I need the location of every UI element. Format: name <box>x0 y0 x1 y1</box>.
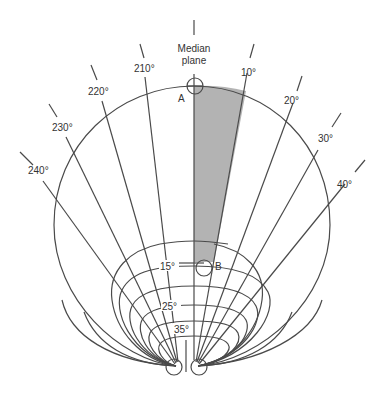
shaded-region <box>194 86 246 262</box>
angle-label-20: 20° <box>284 95 299 106</box>
angle-label-220: 220° <box>88 86 109 97</box>
angle-label-210: 210° <box>134 63 155 74</box>
angle-label-230: 230° <box>52 122 73 133</box>
left-ear-circle <box>166 359 182 375</box>
point-b-label: B <box>215 261 222 272</box>
median-label-2: plane <box>182 55 207 66</box>
angle-label-30: 30° <box>318 133 333 144</box>
angle-label-40: 40° <box>337 179 352 190</box>
inner-label-15: 15° <box>160 261 175 272</box>
sound-localization-diagram: Median plane A B 10° 20° 30° 40° 210° 22… <box>0 0 382 395</box>
point-a-label: A <box>178 93 185 104</box>
inner-label-25: 25° <box>162 301 177 312</box>
inner-label-35: 35° <box>174 324 189 335</box>
iso-curves <box>62 228 322 366</box>
angle-label-10: 10° <box>241 67 256 78</box>
angle-label-240: 240° <box>28 165 49 176</box>
lateral-curves <box>84 241 292 366</box>
median-label-1: Median <box>178 43 211 54</box>
